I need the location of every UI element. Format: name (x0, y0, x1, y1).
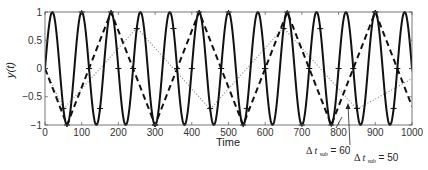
sample-marker-dt50 (115, 66, 121, 72)
y-tick-label: 1 (36, 7, 42, 18)
x-tick-label: 200 (110, 127, 127, 138)
sample-marker-dt60 (174, 66, 180, 72)
x-axis-label: Time (216, 136, 240, 148)
sample-marker-dt50 (97, 105, 103, 111)
x-tick-label: 700 (294, 127, 311, 138)
annotation-dt60-text: Δ t sub = 60 (306, 145, 351, 158)
y-tick-label: −0.5 (22, 91, 42, 102)
sample-marker-dt50 (262, 66, 268, 72)
sample-marker-dt60 (218, 66, 224, 72)
x-tick-label: 400 (183, 127, 200, 138)
arrowhead-dt50 (346, 103, 351, 109)
annotation-dt50-text: Δ t sub = 50 (354, 152, 399, 165)
y-axis-label: y(t) (4, 62, 16, 79)
sample-marker-dt50 (354, 105, 360, 111)
sample-marker-dt60 (306, 66, 312, 72)
x-tick-label: 900 (367, 127, 384, 138)
plot-area (42, 9, 415, 128)
y-tick-label: 0 (36, 63, 42, 74)
x-tick-label: 100 (73, 127, 90, 138)
y-tick-label: 0.5 (28, 35, 42, 46)
x-tick-label: 800 (330, 127, 347, 138)
x-tick-label: 300 (147, 127, 164, 138)
sample-marker-dt50 (189, 66, 195, 72)
sample-marker-dt50 (336, 66, 342, 72)
sample-marker-dt50 (170, 26, 176, 32)
sample-marker-dt60 (130, 66, 136, 72)
sample-marker-dt50 (317, 26, 323, 32)
sample-marker-dt60 (86, 66, 92, 72)
line-chart: 0100200300400500600700800900100010.50−0.… (0, 0, 428, 170)
sample-marker-dt60 (394, 66, 400, 72)
x-tick-label: 1000 (401, 127, 424, 138)
x-tick-label: 0 (42, 127, 48, 138)
sample-marker-dt60 (350, 66, 356, 72)
x-tick-label: 600 (257, 127, 274, 138)
y-tick-label: −1 (31, 120, 43, 131)
sample-marker-dt50 (391, 105, 397, 111)
